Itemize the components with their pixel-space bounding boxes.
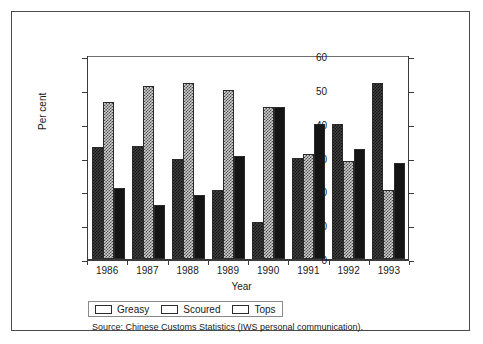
y-axis-label-left-10: 10 xyxy=(316,222,327,232)
legend-swatch-tops xyxy=(232,305,249,314)
bar-group-1987 xyxy=(128,56,168,259)
bar-greasy-1986 xyxy=(92,147,103,259)
bar-scoured-1991 xyxy=(303,154,314,259)
bar-greasy-1989 xyxy=(212,190,223,259)
x-axis-title: Year xyxy=(12,281,471,292)
bar-greasy-1987 xyxy=(132,146,143,259)
bar-groups xyxy=(88,56,409,259)
x-axis-label-1988: 1988 xyxy=(168,265,208,276)
bar-scoured-1989 xyxy=(223,90,234,259)
legend-swatch-greasy xyxy=(95,305,112,314)
y-axis-tick-right-20 xyxy=(409,193,414,194)
legend-entry-tops: Tops xyxy=(232,304,275,315)
bar-scoured-1988 xyxy=(183,83,194,259)
x-axis-label-1990: 1990 xyxy=(248,265,288,276)
bar-greasy-1988 xyxy=(172,159,183,259)
legend-label-scoured: Scoured xyxy=(183,304,220,315)
y-axis-label-left-40: 40 xyxy=(316,121,327,131)
bar-scoured-1992 xyxy=(343,161,354,259)
x-axis-label-1992: 1992 xyxy=(329,265,369,276)
y-axis-tick-left-60 xyxy=(82,58,87,59)
legend-entry-scoured: Scoured xyxy=(161,304,220,315)
legend-label-tops: Tops xyxy=(254,304,275,315)
bar-group-1992 xyxy=(329,56,369,259)
y-axis-label-left-60: 60 xyxy=(316,53,327,63)
y-axis-tick-left-50 xyxy=(82,92,87,93)
chart-legend: GreasyScouredTops xyxy=(88,301,283,317)
bar-scoured-1987 xyxy=(143,86,154,259)
bar-group-1988 xyxy=(168,56,208,259)
bar-tops-1987 xyxy=(154,205,165,259)
x-axis-label-1986: 1986 xyxy=(87,265,127,276)
bar-group-1989 xyxy=(208,56,248,259)
x-axis-label-1989: 1989 xyxy=(208,265,248,276)
bar-tops-1990 xyxy=(274,107,285,259)
x-axis-label-1991: 1991 xyxy=(288,265,328,276)
y-axis-tick-left-30 xyxy=(82,160,87,161)
bar-tops-1986 xyxy=(114,188,125,259)
legend-label-greasy: Greasy xyxy=(117,304,149,315)
bar-tops-1993 xyxy=(394,163,405,259)
bar-scoured-1993 xyxy=(383,190,394,259)
bar-greasy-1991 xyxy=(292,158,303,260)
y-axis-tick-left-20 xyxy=(82,193,87,194)
y-axis-tick-right-30 xyxy=(409,160,414,161)
figure-frame: Per cent 00101020203030404050506060 1986… xyxy=(11,11,470,331)
y-axis-label-left-30: 30 xyxy=(316,155,327,165)
y-axis-tick-right-10 xyxy=(409,227,414,228)
y-axis-tick-right-60 xyxy=(409,58,414,59)
source-note: Source: Chinese Customs Statistics (IWS … xyxy=(92,322,363,332)
y-axis-label-left-50: 50 xyxy=(316,87,327,97)
bar-greasy-1990 xyxy=(252,222,263,259)
y-axis-tick-left-10 xyxy=(82,227,87,228)
y-axis-tick-right-40 xyxy=(409,126,414,127)
bar-tops-1989 xyxy=(234,156,245,259)
x-axis-tick-labels: 19861987198819891990199119921993 xyxy=(87,265,409,276)
x-axis-label-1993: 1993 xyxy=(369,265,409,276)
bar-tops-1988 xyxy=(194,195,205,259)
bar-scoured-1990 xyxy=(263,107,274,259)
bar-tops-1992 xyxy=(354,149,365,259)
y-axis-tick-right-50 xyxy=(409,92,414,93)
y-axis-title: Per cent xyxy=(37,93,48,130)
bar-group-1986 xyxy=(88,56,128,259)
bar-group-1993 xyxy=(369,56,409,259)
x-axis-tick-8 xyxy=(409,261,410,265)
legend-swatch-scoured xyxy=(161,305,178,314)
y-axis-tick-left-40 xyxy=(82,126,87,127)
bar-greasy-1993 xyxy=(372,83,383,259)
plot-area: 00101020203030404050506060 xyxy=(87,56,409,261)
x-axis-label-1987: 1987 xyxy=(127,265,167,276)
y-axis-label-left-20: 20 xyxy=(316,188,327,198)
legend-entry-greasy: Greasy xyxy=(95,304,149,315)
bar-scoured-1986 xyxy=(103,102,114,259)
bar-greasy-1992 xyxy=(332,124,343,259)
bar-group-1990 xyxy=(249,56,289,259)
